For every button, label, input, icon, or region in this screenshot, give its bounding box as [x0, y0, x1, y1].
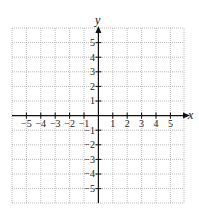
y-tick-label: 2 [90, 81, 95, 92]
x-tick-label: −3 [50, 118, 61, 129]
y-tick-label: −4 [84, 168, 95, 179]
y-tick-label: −1 [84, 125, 95, 136]
y-tick-label: −2 [84, 139, 95, 150]
y-tick-label: 1 [90, 95, 95, 106]
x-tick-labels: −5 −4 −3 −2 −1 1 2 3 4 5 [21, 118, 173, 129]
x-tick-label: 1 [110, 118, 115, 129]
y-axis-label: y [94, 13, 101, 27]
y-tick-label: 4 [90, 52, 95, 63]
x-tick-label: 2 [125, 118, 130, 129]
x-tick-label: −2 [64, 118, 75, 129]
coordinate-plane: x y −5 −4 −3 −2 −1 1 2 3 4 5 5 4 3 2 1 −… [0, 0, 199, 223]
x-tick-label: 5 [168, 118, 173, 129]
y-axis-arrow-icon [95, 26, 101, 33]
x-tick-label: −5 [21, 118, 32, 129]
y-tick-label: −5 [84, 183, 95, 194]
x-axis-label: x [187, 108, 194, 122]
x-tick-label: −4 [35, 118, 46, 129]
y-tick-label: 5 [90, 37, 95, 48]
x-tick-label: 4 [154, 118, 159, 129]
x-tick-label: 3 [139, 118, 144, 129]
y-tick-label: 3 [90, 66, 95, 77]
y-tick-label: −3 [84, 154, 95, 165]
